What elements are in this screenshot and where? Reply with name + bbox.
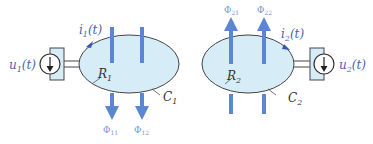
- circuit-1: u1(t) i1(t) R1 C1 Φ11 Φ12: [9, 23, 179, 136]
- flux-12-arrow-icon: [135, 106, 149, 120]
- flux-11-label: Φ11: [103, 125, 118, 136]
- flux-21-label: Φ21: [224, 5, 239, 16]
- contour-c2-label: C2: [288, 91, 302, 107]
- current-1-label: i1(t): [79, 23, 102, 39]
- contour-c1-label: C1: [163, 90, 177, 106]
- surface-r1: [79, 35, 179, 93]
- flux-11-arrow-icon: [105, 106, 119, 120]
- flux-22-label: Φ22: [257, 5, 272, 16]
- flux-21-arrow-icon: [224, 17, 238, 31]
- surface-r2: [202, 35, 294, 93]
- flux-12-label: Φ12: [134, 125, 149, 136]
- flux-22-arrow-icon: [257, 17, 271, 31]
- current-2-label: i2(t): [281, 27, 304, 43]
- circuit-2: i2(t) u2(t) R2 C2 Φ21 Φ22: [202, 5, 366, 114]
- coupled-circuits-diagram: u1(t) i1(t) R1 C1 Φ11 Φ12 i2(t): [0, 0, 373, 144]
- source-1-label: u1(t): [9, 58, 36, 74]
- source-2-label: u2(t): [339, 58, 366, 74]
